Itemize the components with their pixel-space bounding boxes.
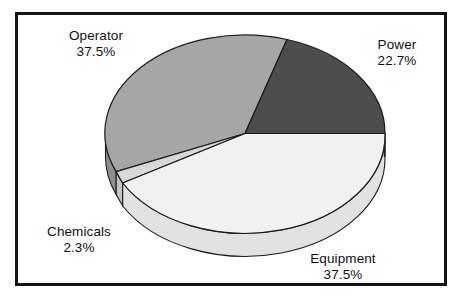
pie-label-equipment-value: 37.5% bbox=[282, 267, 404, 283]
pie-label-chemicals: Chemicals 2.3% bbox=[20, 224, 138, 256]
pie-label-power-name: Power bbox=[352, 37, 442, 53]
pie-label-power-value: 22.7% bbox=[352, 53, 442, 69]
figure-root: Operator 37.5% Power 22.7% Chemicals 2.3… bbox=[0, 0, 462, 299]
pie-label-operator-value: 37.5% bbox=[36, 44, 156, 60]
pie-label-equipment-name: Equipment bbox=[282, 251, 404, 267]
pie-label-chemicals-name: Chemicals bbox=[20, 224, 138, 240]
pie-label-equipment: Equipment 37.5% bbox=[282, 251, 404, 283]
pie-label-operator: Operator 37.5% bbox=[36, 28, 156, 60]
pie-label-chemicals-value: 2.3% bbox=[20, 240, 138, 256]
pie-label-power: Power 22.7% bbox=[352, 37, 442, 69]
pie-label-operator-name: Operator bbox=[36, 28, 156, 44]
